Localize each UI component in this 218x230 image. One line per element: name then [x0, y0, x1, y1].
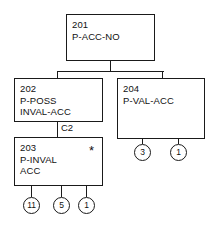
node-box-202[interactable]: 202 P-POSS INVAL-ACC: [14, 78, 103, 122]
node-201-number: 201: [72, 19, 154, 31]
node-202-name-line2: INVAL-ACC: [20, 106, 102, 118]
node-203-name-line2: ACC: [20, 165, 102, 177]
call-tree-diagram: 201 P-ACC-NO 202 P-POSS INVAL-ACC 204 P-…: [0, 0, 218, 230]
node-203-asterisk-icon: *: [89, 148, 94, 154]
node-box-204[interactable]: 204 P-VAL-ACC: [117, 78, 205, 139]
edge-203-stem-3: [86, 186, 87, 197]
terminal-circle-1-right[interactable]: 1: [170, 144, 187, 161]
node-201-name-line1: P-ACC-NO: [72, 31, 154, 43]
terminal-circle-3-label: 3: [140, 148, 145, 157]
node-204-name-line1: P-VAL-ACC: [123, 95, 204, 107]
edge-203-stem-2: [61, 186, 62, 197]
node-box-201[interactable]: 201 P-ACC-NO: [66, 14, 155, 61]
edge-203-stem-1: [31, 186, 32, 197]
node-204-number: 204: [123, 83, 204, 95]
terminal-circle-11[interactable]: 11: [23, 197, 40, 214]
terminal-circle-11-label: 11: [27, 201, 35, 210]
terminal-circle-5[interactable]: 5: [53, 197, 70, 214]
terminal-circle-5-label: 5: [59, 201, 64, 210]
node-202-name-line1: P-POSS: [20, 95, 102, 107]
edge-201-bus: [57, 71, 164, 72]
terminal-circle-1-left-label: 1: [84, 201, 89, 210]
node-202-number: 202: [20, 83, 102, 95]
terminal-circle-3[interactable]: 3: [134, 144, 151, 161]
terminal-circle-1-right-label: 1: [176, 148, 181, 157]
edge-label-c2: C2: [60, 123, 74, 133]
edge-202-to-203: [57, 122, 58, 137]
terminal-circle-1-left[interactable]: 1: [78, 197, 95, 214]
